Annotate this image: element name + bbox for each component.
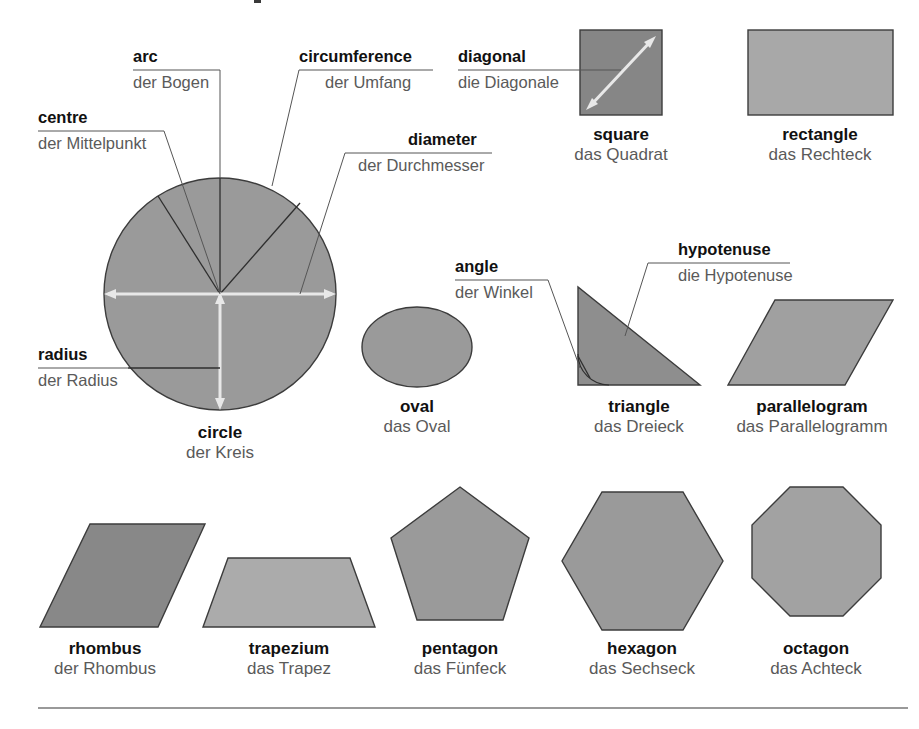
square-label-english: square [593,125,649,144]
trapezium-label-german: das Trapez [247,659,331,678]
octagon-label-german: das Achteck [770,659,862,678]
crop-mark [254,0,261,3]
circumference-leader-line [272,70,299,186]
diagonal-label-german: die Diagonale [458,73,559,91]
parallelogram-label-german: das Parallelogramm [736,417,887,436]
diameter-label-german: der Durchmesser [358,156,485,174]
triangle-shape-group [578,287,700,385]
radius-label-english: radius [38,345,88,363]
centre-label-german: der Mittelpunkt [38,134,147,152]
oval-label-english: oval [400,397,434,416]
parallelogram-label-english: parallelogram [756,397,868,416]
angle-label-german: der Winkel [455,283,533,301]
angle-leader-line [548,280,580,368]
hypotenuse-label-german: die Hypotenuse [678,266,793,284]
pentagon-shape[interactable] [391,487,529,620]
circumference-label-english: circumference [299,47,412,65]
square-label-german: das Quadrat [574,145,668,164]
pentagon-label-german: das Fünfeck [414,659,507,678]
geometry-vocabulary-diagram: circle der Kreis arc der Bogen circumfer… [0,0,919,729]
angle-label-english: angle [455,257,498,275]
rhombus-label-german: der Rhombus [54,659,156,678]
trapezium-shape[interactable] [203,558,375,627]
rectangle-label-german: das Rechteck [769,145,872,164]
oval-shape[interactable] [362,307,472,387]
hexagon-label-english: hexagon [607,639,677,658]
rhombus-label-english: rhombus [69,639,142,658]
hypotenuse-label-english: hypotenuse [678,240,771,258]
rhombus-shape[interactable] [40,524,205,627]
oval-label-german: das Oval [383,417,450,436]
centre-label-english: centre [38,108,88,126]
circumference-label-german: der Umfang [325,73,411,91]
callout-arc[interactable]: arc der Bogen [133,47,220,178]
hexagon-shape[interactable] [562,492,723,630]
callout-angle[interactable]: angle der Winkel [455,257,580,368]
arc-label-german: der Bogen [133,73,209,91]
square-shape-group [580,30,662,115]
circle-label-english: circle [198,423,242,442]
rectangle-shape[interactable] [748,30,893,115]
radius-label-german: der Radius [38,371,118,389]
arc-label-english: arc [133,47,158,65]
octagon-label-english: octagon [783,639,849,658]
callout-radius[interactable]: radius der Radius [38,345,128,389]
pentagon-label-english: pentagon [422,639,499,658]
trapezium-label-english: trapezium [249,639,329,658]
parallelogram-shape[interactable] [728,300,893,385]
diameter-label-english: diameter [408,130,477,148]
octagon-shape[interactable] [752,487,881,616]
hypotenuse-leader-line [625,263,648,336]
circle-label-german: der Kreis [186,443,254,462]
triangle-label-german: das Dreieck [594,417,684,436]
hexagon-label-german: das Sechseck [589,659,695,678]
diagonal-label-english: diagonal [458,47,526,65]
triangle-shape[interactable] [578,287,700,385]
rectangle-label-english: rectangle [782,125,858,144]
shapes-diagram-page: circle der Kreis arc der Bogen circumfer… [0,0,919,729]
triangle-label-english: triangle [608,397,669,416]
